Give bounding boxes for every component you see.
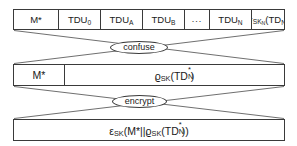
cell-label: TDU0 [68,15,91,25]
cell-label: εSK(M*||ϱSK(TD*N )) [109,124,189,136]
cell-sigma-sk-n-td-n: σSKN(TDN) [252,10,284,29]
cell-label: TDUB [152,15,176,25]
encrypted-row: εSK(M*||ϱSK(TD*N )) [13,119,285,141]
cell-label: TDUN [218,15,242,25]
operation-encrypt: encrypt [112,95,167,108]
operation-confuse: confuse [110,41,168,54]
diagram-canvas: M* TDU0 TDUA TDUB ... TDUN σSKN(TDN) con… [0,0,297,146]
cell-tdu-a: TDUA [101,10,143,29]
cell-tdu-n: TDUN [210,10,252,29]
cell-m-star-top: M* [14,10,59,29]
confused-row: M* ϱSK(TD*N ) [13,64,285,86]
cell-m-star-mid: M* [14,65,65,85]
cell-tdu-ellipsis: ... [185,10,210,29]
operation-label: confuse [123,43,155,52]
cell-tdu-b: TDUB [143,10,185,29]
tdu-table-row: M* TDU0 TDUA TDUB ... TDUN σSKN(TDN) [13,9,285,30]
operation-label: encrypt [125,97,155,106]
cell-label: ϱSK(TD*N ) [155,69,195,81]
cell-epsilon-sk-full: εSK(M*||ϱSK(TD*N )) [14,120,284,140]
cell-label: M* [30,15,42,25]
cell-label: σSKN(TDN) [252,15,284,25]
cell-label: ... [192,15,203,24]
cell-tdu-0: TDU0 [59,10,101,29]
cell-label: M* [33,70,46,81]
cell-label: TDUA [110,15,134,25]
cell-rho-sk-td-star-n: ϱSK(TD*N ) [65,65,284,85]
